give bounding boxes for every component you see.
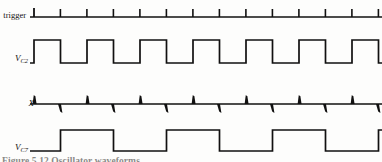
- trigger-pulse: [325, 9, 327, 17]
- vc7-trace: [30, 130, 382, 151]
- x-spike-down: [217, 104, 221, 113]
- timing-diagram-figure: trigger VC2: [0, 0, 382, 162]
- vc7-waveform: [0, 124, 382, 158]
- trigger-pulse: [166, 9, 168, 17]
- trigger-pulse: [139, 9, 141, 17]
- x-spike-up: [139, 95, 143, 104]
- trace-vc7: VC7: [0, 124, 382, 158]
- trace-trigger: trigger: [0, 0, 382, 28]
- trigger-pulse: [351, 9, 353, 17]
- trigger-pulse: [60, 9, 62, 17]
- trigger-pulse: [378, 9, 380, 17]
- figure-caption: Figure 5.12 Oscillator waveforms: [2, 157, 380, 162]
- x-spike-up: [245, 95, 249, 104]
- x-spike-up: [351, 95, 355, 104]
- x-spike-up: [33, 95, 37, 104]
- x-spike-down: [58, 104, 62, 113]
- x-spike-up: [86, 95, 90, 104]
- trace-vc2: VC2: [0, 30, 382, 72]
- x-spike-down: [111, 104, 115, 113]
- x-spike-down: [164, 104, 168, 113]
- trigger-pulse: [219, 9, 221, 17]
- x-waveform: [0, 86, 382, 122]
- x-spike-up: [192, 95, 196, 104]
- trigger-pulse: [33, 8, 35, 17]
- vc2-trace: [30, 40, 382, 63]
- trigger-pulse: [272, 9, 274, 17]
- x-spike-down: [376, 104, 380, 113]
- trace-x: X: [0, 86, 382, 122]
- x-spike-down: [270, 104, 274, 113]
- vc2-waveform: [0, 30, 382, 72]
- trigger-pulses: [33, 8, 379, 17]
- trigger-pulse: [192, 9, 194, 17]
- trigger-waveform: [0, 0, 382, 28]
- trigger-pulse: [113, 9, 115, 17]
- trigger-pulse: [245, 9, 247, 17]
- trigger-pulse: [298, 9, 300, 17]
- x-spike-down: [323, 104, 327, 113]
- trigger-pulse: [86, 9, 88, 17]
- x-spike-up: [298, 95, 302, 104]
